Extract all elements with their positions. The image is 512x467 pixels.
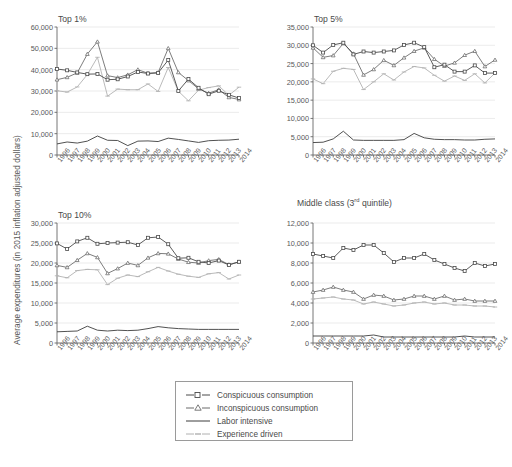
x-tick-label: 2002	[372, 147, 387, 164]
x-tick-label: 1998	[76, 335, 91, 352]
x-tick-label: 2008	[433, 147, 448, 164]
x-tick-label: 2001	[106, 147, 121, 164]
series-marker	[55, 78, 59, 81]
x-tick-label: 1996	[312, 147, 327, 164]
series-marker	[157, 71, 160, 74]
series-marker	[116, 76, 120, 79]
series-marker	[321, 55, 325, 58]
x-tick-label: 2003	[126, 147, 141, 164]
series-line	[313, 335, 495, 337]
x-tick-label: 1996	[56, 335, 71, 352]
series-marker	[473, 64, 476, 67]
series-marker	[473, 262, 476, 265]
series-marker	[413, 257, 416, 260]
y-tick-label: 2,000	[257, 319, 309, 328]
y-axis-label-container: Average expenditures (in 2015 inflation …	[14, 345, 28, 467]
y-tick-label: 20,000	[1, 108, 53, 117]
x-tick-label: 2006	[157, 147, 172, 164]
x-tick-label: 2007	[167, 147, 182, 164]
series-line	[57, 60, 239, 98]
series-marker	[217, 89, 220, 92]
x-tick-label: 1998	[76, 147, 91, 164]
y-tick-label: 8,000	[257, 259, 309, 268]
series-marker	[156, 71, 160, 74]
x-tick-label: 2011	[463, 335, 478, 351]
x-tick-label: 2004	[136, 147, 151, 164]
series-marker	[341, 288, 345, 291]
series-marker	[392, 49, 395, 52]
x-tick-label: 2011	[463, 147, 478, 163]
axis-lines	[57, 223, 239, 343]
x-tick-label: 2005	[147, 335, 162, 352]
x-tick-label: 2013	[483, 147, 498, 164]
x-tick-label: 1999	[86, 335, 101, 352]
series-marker	[494, 263, 497, 266]
series-marker	[483, 72, 486, 75]
series-marker	[362, 73, 366, 76]
legend-marker-triangle	[185, 403, 211, 413]
legend-marker-dot	[185, 429, 211, 439]
y-tick-label: 30,000	[257, 41, 309, 50]
series-marker	[177, 257, 180, 260]
legend-marker-square	[185, 390, 211, 400]
x-tick-label: 2003	[382, 147, 397, 164]
series-marker	[463, 297, 467, 300]
chart-legend: Conspicuous consumptionInconspicuous con…	[175, 381, 353, 441]
x-tick-label: 2000	[96, 147, 111, 164]
series-marker	[463, 70, 466, 73]
series-marker	[136, 68, 140, 71]
series-marker	[75, 258, 79, 261]
legend-label: Inconspicuous consumption	[217, 404, 318, 413]
series-marker	[372, 293, 376, 296]
series-marker	[483, 299, 487, 302]
series-marker	[362, 50, 365, 53]
series-marker	[96, 242, 99, 245]
series-marker	[443, 64, 447, 67]
x-tick-label: 2007	[167, 335, 182, 352]
series-marker	[413, 41, 416, 44]
series-marker	[146, 71, 150, 74]
series-marker	[136, 71, 139, 74]
series-line	[313, 245, 495, 271]
x-tick-label: 2008	[433, 335, 448, 352]
series-marker	[493, 58, 497, 61]
series-line	[57, 253, 239, 273]
series-marker	[352, 290, 356, 293]
series-marker	[106, 272, 110, 275]
series-marker	[157, 236, 160, 239]
y-tick-label: 15,000	[1, 279, 53, 288]
y-axis-label: Average expenditures (in 2015 inflation …	[13, 15, 27, 345]
x-tick-label: 2007	[423, 335, 438, 352]
x-tick-label: 2003	[126, 335, 141, 352]
y-tick-label: 0	[257, 339, 309, 348]
series-marker	[433, 259, 436, 262]
panel-title: Middle class (3rd quintile)	[297, 197, 392, 208]
series-marker	[432, 297, 436, 300]
series-marker	[197, 87, 201, 90]
series-line	[57, 267, 239, 284]
series-marker	[55, 264, 59, 267]
x-tick-label: 2005	[403, 335, 418, 352]
series-marker	[56, 68, 59, 71]
series-marker	[126, 261, 130, 264]
series-marker	[237, 260, 241, 263]
series-marker	[156, 252, 160, 255]
x-tick-label: 1997	[66, 147, 81, 164]
x-tick-label: 2008	[177, 147, 192, 164]
y-tick-label: 10,000	[1, 129, 53, 138]
series-marker	[86, 73, 89, 76]
series-marker	[187, 78, 190, 81]
series-marker	[443, 294, 447, 297]
y-tick-label: 0	[1, 151, 53, 160]
y-tick-label: 10,000	[1, 299, 53, 308]
y-tick-label: 35,000	[257, 23, 309, 32]
series-marker	[76, 71, 79, 74]
x-tick-label: 1999	[86, 147, 101, 164]
series-marker	[331, 285, 335, 288]
series-marker	[166, 46, 170, 49]
series-marker	[227, 93, 230, 96]
series-marker	[146, 256, 150, 259]
series-marker	[312, 253, 315, 256]
series-marker	[321, 288, 325, 291]
legend-item: Inconspicuous consumption	[185, 402, 318, 414]
